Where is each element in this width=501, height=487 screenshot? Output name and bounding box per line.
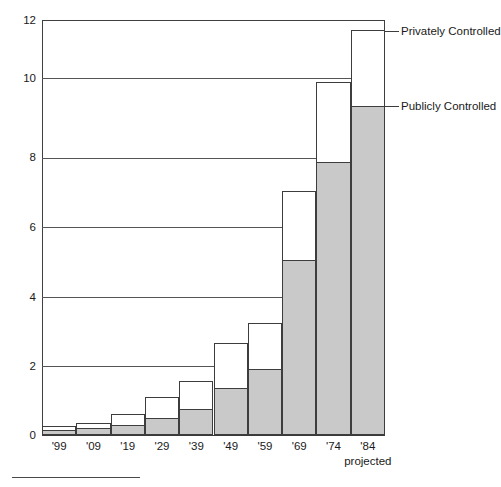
bar-group [351, 30, 385, 435]
y-tick-2: 2 [0, 361, 36, 372]
x-tick-label: '74 [316, 440, 350, 452]
y-tick-6: 6 [0, 222, 36, 233]
x-tick-label: '19 [111, 440, 145, 452]
bar-segment-publicly-controlled [145, 418, 179, 435]
x-tick-sublabel-projected: projected [335, 455, 401, 467]
bar-group [248, 323, 282, 435]
x-tick-label: '59 [248, 440, 282, 452]
bar-group [282, 191, 316, 435]
x-tick-label: '99 [42, 440, 76, 452]
bar-segment-publicly-controlled [282, 260, 316, 435]
x-tick-label: '84 [351, 440, 385, 452]
private-callout-rule [385, 31, 399, 32]
y-tick-12: 12 [0, 15, 36, 26]
bar-segment-publicly-controlled [179, 409, 213, 435]
x-tick-label: '69 [282, 440, 316, 452]
bar-segment-publicly-controlled [76, 428, 110, 435]
x-tick-label: '49 [214, 440, 248, 452]
bar-group [76, 423, 110, 435]
bar-segment-publicly-controlled [42, 430, 76, 435]
bar-group [179, 381, 213, 435]
x-tick-label: '29 [145, 440, 179, 452]
public-callout-label: Publicly Controlled [401, 100, 496, 112]
bar-segment-publicly-controlled [214, 388, 248, 435]
bar-group [316, 82, 350, 435]
bar-segment-publicly-controlled [351, 106, 385, 435]
y-tick-8: 8 [0, 152, 36, 163]
bar-group [145, 397, 179, 435]
private-callout-label: Privately Controlled [401, 25, 501, 37]
y-tick-10: 10 [0, 73, 36, 84]
gridline-10 [42, 78, 385, 79]
y-tick-4: 4 [0, 292, 36, 303]
y-tick-0: 0 [0, 430, 36, 441]
bar-group [214, 343, 248, 435]
x-tick-label: '09 [76, 440, 110, 452]
x-axis-baseline [42, 435, 385, 436]
public-callout-rule [385, 106, 399, 107]
bar-group [42, 426, 76, 435]
bar-segment-publicly-controlled [248, 369, 282, 435]
bar-segment-publicly-controlled [316, 162, 350, 435]
footer-divider [12, 477, 140, 478]
bar-group [111, 414, 145, 435]
x-tick-label: '39 [179, 440, 213, 452]
bar-segment-publicly-controlled [111, 425, 145, 435]
